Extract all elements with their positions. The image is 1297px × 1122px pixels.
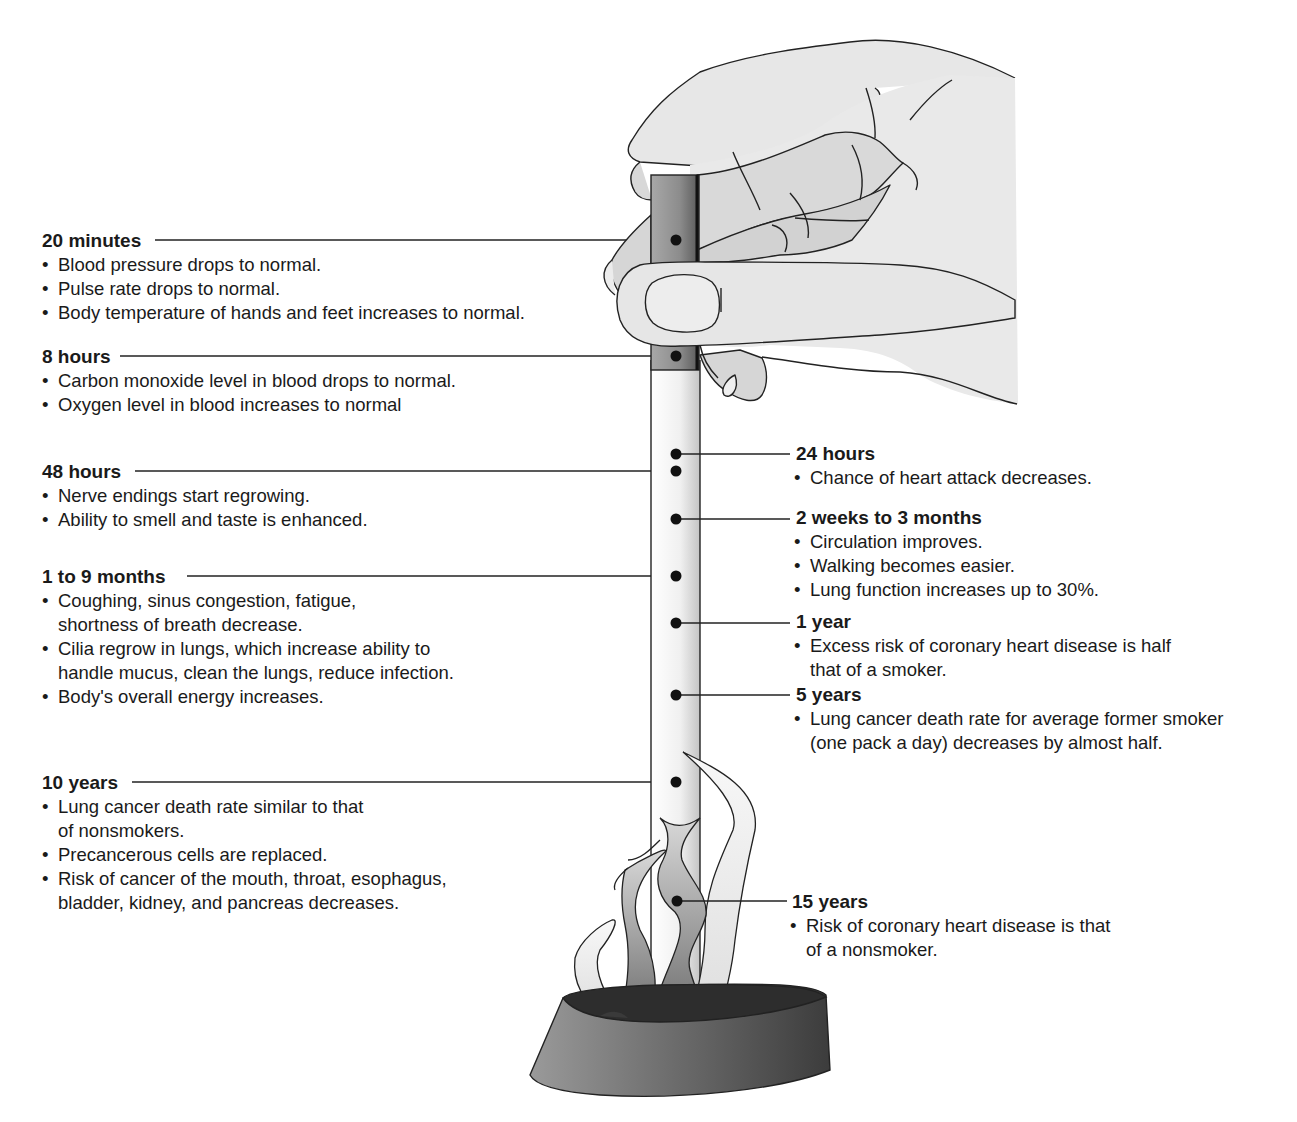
milestone-item: Oxygen level in blood increases to norma… bbox=[42, 393, 456, 417]
milestone-48-hours: 48 hours Nerve endings start regrowing. … bbox=[42, 460, 368, 532]
milestone-item: Cilia regrow in lungs, which increase ab… bbox=[42, 637, 454, 685]
milestone-item: Coughing, sinus congestion, fatigue, sho… bbox=[42, 589, 454, 637]
milestone-15-years: 15 years Risk of coronary heart disease … bbox=[790, 890, 1110, 962]
milestone-item: Chance of heart attack decreases. bbox=[794, 466, 1092, 490]
dot-5-years bbox=[671, 690, 682, 701]
milestone-item: Nerve endings start regrowing. bbox=[42, 484, 368, 508]
milestone-list: Circulation improves. Walking becomes ea… bbox=[794, 530, 1099, 602]
milestone-2-weeks-to-3-months: 2 weeks to 3 months Circulation improves… bbox=[794, 506, 1099, 602]
milestone-list: Lung cancer death rate similar to that o… bbox=[42, 795, 447, 915]
milestone-24-hours: 24 hours Chance of heart attack decrease… bbox=[794, 442, 1092, 490]
milestone-item: Body's overall energy increases. bbox=[42, 685, 454, 709]
milestone-item: Carbon monoxide level in blood drops to … bbox=[42, 369, 456, 393]
dot-15-years bbox=[672, 896, 683, 907]
dot-24-hours bbox=[671, 449, 682, 460]
milestone-item: Circulation improves. bbox=[794, 530, 1099, 554]
ashtray-icon bbox=[530, 984, 830, 1096]
milestone-time: 8 hours bbox=[42, 345, 115, 369]
milestone-item: Risk of coronary heart disease is that o… bbox=[790, 914, 1110, 962]
milestone-time: 48 hours bbox=[42, 460, 125, 484]
milestone-item: Blood pressure drops to normal. bbox=[42, 253, 525, 277]
milestone-item: Precancerous cells are replaced. bbox=[42, 843, 447, 867]
milestone-item: Ability to smell and taste is enhanced. bbox=[42, 508, 368, 532]
milestone-time: 10 years bbox=[42, 771, 122, 795]
milestone-time: 1 year bbox=[794, 610, 851, 634]
milestone-item: Lung function increases up to 30%. bbox=[794, 578, 1099, 602]
milestone-item: Risk of cancer of the mouth, throat, eso… bbox=[42, 867, 447, 915]
dot-10-years bbox=[671, 777, 682, 788]
milestone-time: 2 weeks to 3 months bbox=[794, 506, 982, 530]
milestone-list: Lung cancer death rate for average forme… bbox=[794, 707, 1223, 755]
milestone-list: Excess risk of coronary heart disease is… bbox=[794, 634, 1171, 682]
milestone-item: Excess risk of coronary heart disease is… bbox=[794, 634, 1171, 682]
milestone-list: Blood pressure drops to normal. Pulse ra… bbox=[42, 253, 525, 325]
milestone-item: Lung cancer death rate for average forme… bbox=[794, 707, 1223, 755]
milestone-item: Pulse rate drops to normal. bbox=[42, 277, 525, 301]
milestone-1-year: 1 year Excess risk of coronary heart dis… bbox=[794, 610, 1171, 682]
milestone-5-years: 5 years Lung cancer death rate for avera… bbox=[794, 683, 1223, 755]
milestone-item: Lung cancer death rate similar to that o… bbox=[42, 795, 447, 843]
milestone-1-to-9-months: 1 to 9 months Coughing, sinus congestion… bbox=[42, 565, 454, 709]
milestone-time: 1 to 9 months bbox=[42, 565, 170, 589]
milestone-8-hours: 8 hours Carbon monoxide level in blood d… bbox=[42, 345, 456, 417]
dot-2-weeks-to-3-months bbox=[671, 514, 682, 525]
milestone-time: 24 hours bbox=[794, 442, 875, 466]
milestone-time: 20 minutes bbox=[42, 229, 145, 253]
dot-8-hours bbox=[671, 351, 682, 362]
milestone-item: Walking becomes easier. bbox=[794, 554, 1099, 578]
milestone-list: Nerve endings start regrowing. Ability t… bbox=[42, 484, 368, 532]
dot-1-to-9-months bbox=[671, 571, 682, 582]
milestone-item: Body temperature of hands and feet incre… bbox=[42, 301, 525, 325]
milestone-10-years: 10 years Lung cancer death rate similar … bbox=[42, 771, 447, 915]
milestone-list: Risk of coronary heart disease is that o… bbox=[790, 914, 1110, 962]
milestone-list: Chance of heart attack decreases. bbox=[794, 466, 1092, 490]
dot-20-minutes bbox=[671, 235, 682, 246]
milestone-list: Coughing, sinus congestion, fatigue, sho… bbox=[42, 589, 454, 709]
dot-1-year bbox=[671, 618, 682, 629]
milestone-list: Carbon monoxide level in blood drops to … bbox=[42, 369, 456, 417]
milestone-time: 15 years bbox=[790, 890, 868, 914]
milestone-20-minutes: 20 minutes Blood pressure drops to norma… bbox=[42, 229, 525, 325]
milestone-time: 5 years bbox=[794, 683, 862, 707]
dot-48-hours bbox=[671, 466, 682, 477]
